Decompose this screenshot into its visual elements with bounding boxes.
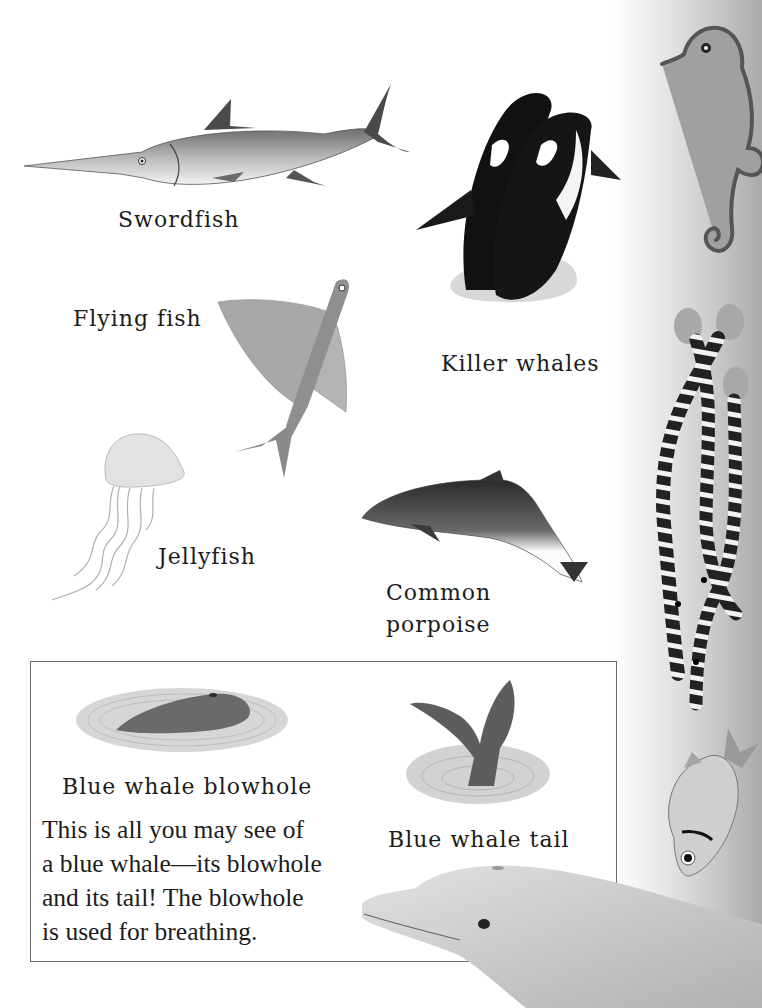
blue-whale-tail-caption: Blue whale tail (388, 827, 570, 852)
common-porpoise-illustration (360, 466, 590, 586)
jellyfish-illustration (50, 428, 190, 603)
flying-fish-label: Flying fish (73, 306, 202, 331)
blue-whale-blowhole-caption: Blue whale blowhole (62, 774, 312, 799)
description-line: is used for breathing. (42, 915, 372, 949)
common-porpoise-label-line2: porpoise (386, 609, 491, 641)
description-line: and its tail! The blowhole (42, 881, 372, 915)
book-page: Swordfish Killer whales Flying fish Jell… (0, 0, 762, 1008)
killer-whales-label: Killer whales (441, 351, 600, 376)
blue-whale-description: This is all you may see of a blue whale—… (42, 813, 372, 949)
description-line: This is all you may see of (42, 813, 372, 847)
seahorse-illustration (658, 8, 758, 258)
swordfish-illustration (24, 82, 414, 192)
flying-fish-illustration (216, 276, 356, 481)
common-porpoise-label: Common porpoise (386, 577, 491, 641)
blue-whale-blowhole-illustration (74, 682, 290, 754)
dolphin-head-illustration (356, 864, 762, 1008)
swordfish-label: Swordfish (118, 207, 239, 232)
description-line: a blue whale—its blowhole (42, 847, 372, 881)
jellyfish-label: Jellyfish (158, 544, 256, 569)
killer-whales-illustration (416, 90, 626, 305)
striped-sea-snakes-illustration (656, 304, 756, 709)
common-porpoise-label-line1: Common (386, 577, 491, 609)
blue-whale-tail-illustration (404, 678, 552, 806)
